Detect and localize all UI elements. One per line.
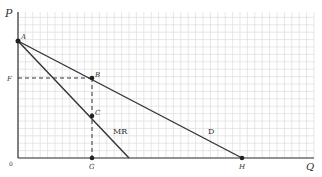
label-C: C [95, 109, 101, 117]
y-axis-label: P [4, 7, 13, 20]
point-G [90, 156, 95, 161]
label-F: F [6, 75, 13, 83]
point-A [16, 39, 21, 44]
label-MR: MR [113, 127, 128, 136]
label-H: H [238, 163, 246, 171]
point-C [90, 114, 95, 119]
label-D: D [208, 127, 214, 136]
origin-label: 0 [9, 160, 13, 167]
marginal-revenue-curve [18, 41, 129, 158]
label-A: A [20, 33, 26, 41]
diagram-canvas: P Q 0 A B C F G H MR D [0, 0, 322, 177]
point-B [90, 76, 95, 81]
label-B: B [94, 71, 100, 79]
grid [18, 12, 314, 158]
label-G: G [89, 163, 95, 171]
x-axis-label: Q [306, 161, 314, 172]
point-H [240, 156, 245, 161]
demand-curve [18, 41, 242, 158]
